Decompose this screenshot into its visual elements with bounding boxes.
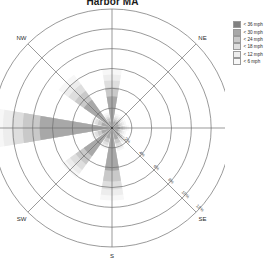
legend-item-label: < 18 mph	[244, 44, 263, 49]
compass-label-se: SE	[199, 216, 207, 222]
legend-item[interactable]: < 12 mph	[233, 51, 275, 58]
rose-sectors	[0, 69, 129, 200]
legend-item[interactable]: < 36 mph	[233, 21, 275, 28]
rose-center-point	[111, 127, 113, 129]
legend-item[interactable]: < 24 mph	[233, 36, 275, 43]
legend-swatch-icon	[233, 36, 241, 43]
compass-label-nw: NW	[16, 35, 26, 41]
legend-swatch-icon	[233, 58, 241, 65]
legend-item-label: < 12 mph	[244, 52, 263, 57]
grid-spoke	[28, 128, 112, 212]
chart-title: Harbor MA	[0, 0, 225, 7]
legend-item[interactable]: < 6 mph	[233, 58, 275, 65]
chart-legend: < 36 mph< 30 mph< 24 mph< 18 mph< 12 mph…	[233, 21, 275, 65]
compass-label-ne: NE	[198, 35, 206, 41]
legend-swatch-icon	[233, 51, 241, 58]
legend-item[interactable]: < 18 mph	[233, 43, 275, 50]
legend-item[interactable]: < 30 mph	[233, 28, 275, 35]
legend-item-label: < 36 mph	[244, 22, 263, 27]
legend-swatch-icon	[233, 43, 241, 50]
windrose-chart-panel: Harbor MA NNEESESSWWNW2%4%6%8%10%12% < 3…	[0, 0, 275, 267]
legend-swatch-icon	[233, 21, 241, 28]
grid-spoke	[28, 44, 112, 128]
compass-label-s: S	[110, 253, 114, 259]
windrose-plot: NNEESESSWWNW2%4%6%8%10%12%	[0, 8, 225, 260]
legend-item-label: < 6 mph	[244, 59, 261, 64]
grid-spoke	[112, 44, 196, 128]
legend-item-label: < 24 mph	[244, 37, 263, 42]
legend-item-label: < 30 mph	[244, 30, 263, 35]
legend-swatch-icon	[233, 29, 241, 36]
compass-label-sw: SW	[17, 216, 27, 222]
